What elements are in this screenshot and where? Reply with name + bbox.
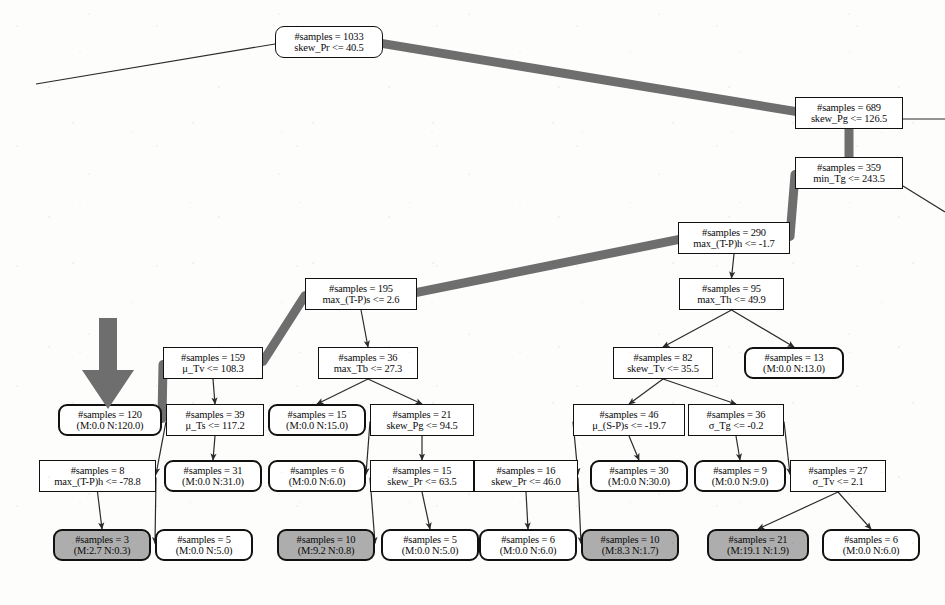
leaf-node-n5b[interactable]: #samples = 5(M:0.0 N:5.0) <box>381 529 479 561</box>
split-node-n290[interactable]: #samples = 290max_(T-P)h <= -1.7 <box>678 222 790 254</box>
node-samples-label: #samples = 30 <box>610 465 669 476</box>
node-samples-label: #samples = 9 <box>713 465 767 476</box>
tree-edge-n8-to-n3 <box>98 492 103 529</box>
node-samples-label: #samples = 359 <box>817 162 881 173</box>
leaf-node-n31[interactable]: #samples = 31(M:0.0 N:31.0) <box>164 460 262 492</box>
tree-edge-n16-to-n10b <box>578 478 581 544</box>
node-samples-label: #samples = 31 <box>184 465 243 476</box>
node-class-distribution: (M:19.1 N:1.9) <box>727 545 789 556</box>
split-node-n15b[interactable]: #samples = 15skew_Pr <= 63.5 <box>370 460 474 492</box>
node-class-distribution: (M:0.0 N:31.0) <box>182 476 244 487</box>
node-samples-label: #samples = 10 <box>297 534 356 545</box>
tree-edge-n27-to-n21b <box>758 492 838 529</box>
split-node-n21[interactable]: #samples = 21skew_Pg <= 94.5 <box>370 404 474 436</box>
leaf-node-n10a[interactable]: #samples = 10(M:9.2 N:0.8) <box>277 529 375 561</box>
node-class-distribution: (M:0.0 N:6.0) <box>843 545 900 556</box>
split-node-n27[interactable]: #samples = 27σ_Tv <= 2.1 <box>790 460 886 492</box>
split-node-n16[interactable]: #samples = 16skew_Pr <= 46.0 <box>474 460 578 492</box>
node-split-condition: skew_Tv <= 35.5 <box>627 363 699 374</box>
node-samples-label: #samples = 5 <box>403 534 457 545</box>
split-node-n36[interactable]: #samples = 36max_Tb <= 27.3 <box>318 347 418 379</box>
node-class-distribution: (M:2.7 N:0.3) <box>74 545 131 556</box>
leaf-node-n15a[interactable]: #samples = 15(M:0.0 N:15.0) <box>268 404 366 436</box>
node-split-condition: skew_Pr <= 46.0 <box>491 476 560 487</box>
node-class-distribution: (M:0.0 N:9.0) <box>712 476 769 487</box>
node-samples-label: #samples = 6 <box>844 534 898 545</box>
split-node-n39[interactable]: #samples = 39μ_Ts <= 117.2 <box>166 404 264 436</box>
node-samples-label: #samples = 6 <box>501 534 555 545</box>
node-samples-label: #samples = 13 <box>765 352 824 363</box>
node-class-distribution: (M:0.0 N:6.0) <box>289 476 346 487</box>
split-node-n1033[interactable]: #samples = 1033skew_Pr <= 40.5 <box>275 26 383 58</box>
node-split-condition: skew_Pr <= 40.5 <box>294 42 363 53</box>
node-samples-label: #samples = 5 <box>177 534 231 545</box>
node-class-distribution: (M:0.0 N:120.0) <box>77 420 144 431</box>
tree-edge-n95-to-n82 <box>663 310 732 347</box>
node-class-distribution: (M:0.0 N:13.0) <box>763 363 825 374</box>
tree-edge-n195-to-n36 <box>361 310 368 347</box>
tree-edge-n82-to-n46 <box>629 379 663 404</box>
node-split-condition: max_(T-P)h <= -78.8 <box>54 476 140 487</box>
decision-tree-figure: #samples = 1033skew_Pr <= 40.5#samples =… <box>0 0 945 605</box>
tree-edge-n82-to-n36b <box>663 379 736 404</box>
split-node-n82[interactable]: #samples = 82skew_Tv <= 35.5 <box>613 347 713 379</box>
tree-edge-n46-to-n30 <box>629 436 639 460</box>
node-samples-label: #samples = 120 <box>78 409 142 420</box>
tree-edge-n16-to-n6b <box>526 492 528 529</box>
node-split-condition: μ_Tv <= 108.3 <box>182 363 243 374</box>
tree-edges-layer <box>0 0 945 605</box>
leaf-node-n5a[interactable]: #samples = 5(M:0.0 N:5.0) <box>155 529 253 561</box>
split-node-n95[interactable]: #samples = 95max_Th <= 49.9 <box>679 278 784 310</box>
leaf-node-n21b[interactable]: #samples = 21(M:19.1 N:1.9) <box>707 529 809 561</box>
leaf-node-n30[interactable]: #samples = 30(M:0.0 N:30.0) <box>590 460 688 492</box>
leaf-node-n13[interactable]: #samples = 13(M:0.0 N:13.0) <box>744 347 844 379</box>
split-node-n689[interactable]: #samples = 689skew_Pg <= 126.5 <box>795 97 903 129</box>
node-samples-label: #samples = 1033 <box>295 31 364 42</box>
split-node-n36b[interactable]: #samples = 36σ_Tg <= -0.2 <box>688 404 784 436</box>
split-node-n159[interactable]: #samples = 159μ_Tv <= 108.3 <box>163 347 263 379</box>
tree-edge-n36b-to-n9 <box>736 436 740 460</box>
node-class-distribution: (M:0.0 N:6.0) <box>500 545 557 556</box>
node-split-condition: max_(T-P)h <= -1.7 <box>693 238 774 249</box>
leaf-node-n6b[interactable]: #samples = 6(M:0.0 N:6.0) <box>479 529 577 561</box>
tree-edge-n95-to-n13 <box>732 310 795 347</box>
split-node-n46[interactable]: #samples = 46μ_(S-P)s <= -19.7 <box>573 404 685 436</box>
leaf-node-n6c[interactable]: #samples = 6(M:0.0 N:6.0) <box>822 529 920 561</box>
tree-edge-n36-to-n21 <box>368 379 422 404</box>
node-samples-label: #samples = 36 <box>707 409 766 420</box>
split-node-n195[interactable]: #samples = 195max_(T-P)s <= 2.6 <box>305 278 417 310</box>
node-split-condition: min_Tg <= 243.5 <box>813 173 885 184</box>
node-split-condition: skew_Pr <= 63.5 <box>387 476 456 487</box>
node-class-distribution: (M:0.0 N:30.0) <box>608 476 670 487</box>
tree-edge-n15b-to-n5b <box>422 492 430 529</box>
node-samples-label: #samples = 159 <box>181 352 245 363</box>
node-split-condition: skew_Pg <= 126.5 <box>811 113 887 124</box>
leaf-node-n10b[interactable]: #samples = 10(M:8.3 N:1.7) <box>581 529 679 561</box>
tree-edge-n195-to-n159 <box>263 296 305 362</box>
node-samples-label: #samples = 15 <box>288 409 347 420</box>
split-node-n359[interactable]: #samples = 359min_Tg <= 243.5 <box>795 157 903 189</box>
node-samples-label: #samples = 95 <box>702 283 761 294</box>
node-split-condition: max_(T-P)s <= 2.6 <box>323 294 400 305</box>
node-split-condition: μ_(S-P)s <= -19.7 <box>592 420 666 431</box>
node-class-distribution: (M:0.0 N:5.0) <box>402 545 459 556</box>
node-samples-label: #samples = 16 <box>497 465 556 476</box>
node-split-condition: max_Tb <= 27.3 <box>334 363 402 374</box>
node-split-condition: σ_Tg <= -0.2 <box>709 420 764 431</box>
tree-edge-n290-to-n195 <box>417 240 678 293</box>
leaf-node-n9[interactable]: #samples = 9(M:0.0 N:9.0) <box>694 460 786 492</box>
node-split-condition: skew_Pg <= 94.5 <box>386 420 457 431</box>
node-class-distribution: (M:9.2 N:0.8) <box>298 545 355 556</box>
node-samples-label: #samples = 290 <box>702 227 766 238</box>
node-split-condition: max_Th <= 49.9 <box>697 294 765 305</box>
split-node-n8[interactable]: #samples = 8max_(T-P)h <= -78.8 <box>39 460 156 492</box>
node-class-distribution: (M:0.0 N:5.0) <box>176 545 233 556</box>
leaf-node-n6a[interactable]: #samples = 6(M:0.0 N:6.0) <box>268 460 366 492</box>
node-samples-label: #samples = 36 <box>339 352 398 363</box>
node-samples-label: #samples = 21 <box>393 409 452 420</box>
leaf-node-n3[interactable]: #samples = 3(M:2.7 N:0.3) <box>53 529 151 561</box>
tree-edge-n159-to-n39 <box>213 379 215 404</box>
node-samples-label: #samples = 8 <box>71 465 125 476</box>
node-class-distribution: (M:0.0 N:15.0) <box>286 420 348 431</box>
tree-edge-n290-to-n95 <box>732 254 735 278</box>
